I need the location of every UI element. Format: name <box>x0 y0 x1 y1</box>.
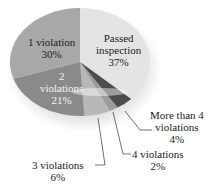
label-3-violations: 3 violations 6% <box>32 159 84 183</box>
label-text: violations <box>150 121 204 133</box>
label-text: 3 violations <box>32 159 84 171</box>
label-text: 2 <box>40 70 83 82</box>
label-percent: 2% <box>132 160 184 172</box>
label-percent: 37% <box>96 56 141 68</box>
label-text: 4 violations <box>132 148 184 160</box>
label-percent: 4% <box>150 133 204 145</box>
label-text: inspection <box>96 44 141 56</box>
label-text: 1 violation <box>28 36 75 48</box>
label-percent: 6% <box>32 171 84 183</box>
label-percent: 21% <box>40 94 83 106</box>
label-text: More than 4 <box>150 109 204 121</box>
label-text: violations <box>40 82 83 94</box>
label-percent: 30% <box>28 48 75 60</box>
label-more-than-4-violations: More than 4 violations 4% <box>150 109 204 145</box>
label-4-violations: 4 violations 2% <box>132 148 184 172</box>
label-1-violation: 1 violation 30% <box>28 36 75 60</box>
label-text: Passed <box>96 32 141 44</box>
label-2-violations: 2 violations 21% <box>40 70 83 106</box>
label-passed-inspection: Passed inspection 37% <box>96 32 141 68</box>
